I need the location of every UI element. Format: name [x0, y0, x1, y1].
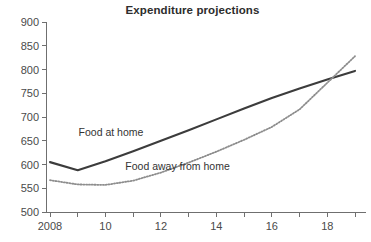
y-tick-label: 750: [21, 87, 39, 99]
y-tick-label: 600: [21, 159, 39, 171]
x-tick-label: 14: [210, 220, 222, 232]
series-annotations: Food at homeFood away from home: [79, 126, 230, 172]
y-tick-label: 650: [21, 135, 39, 147]
y-tick-label: 500: [21, 206, 39, 218]
x-tick-label: 2008: [38, 220, 62, 232]
x-tick-label: 16: [266, 220, 278, 232]
series-line-food-at-home: [50, 71, 355, 170]
y-tick-label: 800: [21, 64, 39, 76]
y-tick-label: 900: [21, 16, 39, 28]
expenditure-projections-chart: Expenditure projections 5005506006507007…: [0, 0, 371, 242]
series-label-food-at-home: Food at home: [79, 126, 144, 138]
y-tick-label: 850: [21, 40, 39, 52]
x-axis: 20081012141618: [38, 212, 366, 232]
y-tick-label: 700: [21, 111, 39, 123]
y-tick-label: 550: [21, 182, 39, 194]
x-tick-label: 18: [321, 220, 333, 232]
series-label-food-away-from-home: Food away from home: [125, 160, 230, 172]
y-axis: 500550600650700750800850900: [21, 16, 46, 218]
x-tick-label: 10: [99, 220, 111, 232]
x-tick-label: 12: [155, 220, 167, 232]
chart-plot-area: 500550600650700750800850900 200810121416…: [0, 0, 371, 242]
